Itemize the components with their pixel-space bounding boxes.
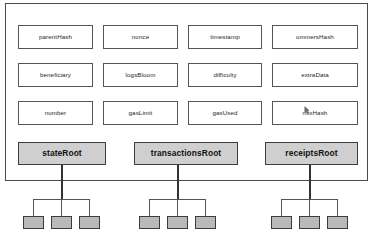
field-label: gasUsed [212,110,237,116]
tree-branch-stateRoot-3 [89,199,90,216]
field-box-number[interactable]: number [18,101,93,125]
field-label: logsBloom [126,72,156,78]
field-box-extraData[interactable]: extraData [272,63,358,87]
field-box-timestamp[interactable]: timestamp [188,25,262,49]
tree-branch-transactionsRoot-2 [177,199,178,216]
leaf-node[interactable] [23,216,44,229]
field-box-beneficiary[interactable]: beneficiary [18,63,93,87]
field-label: number [45,110,67,116]
root-box-receiptsRoot[interactable]: receiptsRoot [265,142,358,165]
field-box-parentHash[interactable]: parentHash [18,25,93,49]
leaf-node[interactable] [139,216,160,229]
leaf-node[interactable] [195,216,216,229]
field-box-logsBloom[interactable]: logsBloom [103,63,178,87]
leaf-node[interactable] [79,216,100,229]
leaf-node[interactable] [167,216,188,229]
leaf-node[interactable] [51,216,72,229]
field-label: ommersHash [296,34,334,40]
tree-trunk-transactionsRoot [177,164,179,199]
leaf-node[interactable] [327,216,348,229]
tree-branch-receiptsRoot-2 [309,199,310,216]
tree-branch-transactionsRoot-1 [149,199,150,216]
root-box-transactionsRoot[interactable]: transactionsRoot [134,142,238,165]
leaf-node[interactable] [271,216,292,229]
tree-trunk-stateRoot [61,164,63,199]
field-label: beneficiary [40,72,71,78]
tree-branch-receiptsRoot-3 [337,199,338,216]
root-label: transactionsRoot [151,149,221,157]
root-label: receiptsRoot [285,149,337,157]
tree-branch-stateRoot-2 [61,199,62,216]
tree-branch-stateRoot-1 [33,199,34,216]
field-label: gasLimit [129,110,153,116]
field-label: extraData [301,72,329,78]
diagram-canvas: parentHash nonce timestamp ommersHash be… [0,0,374,238]
tree-branch-receiptsRoot-1 [281,199,282,216]
field-box-gasUsed[interactable]: gasUsed [188,101,262,125]
field-label: nonce [132,34,149,40]
root-box-stateRoot[interactable]: stateRoot [18,142,106,165]
root-label: stateRoot [42,149,82,157]
field-box-difficulty[interactable]: difficulty [188,63,262,87]
field-box-nonce[interactable]: nonce [103,25,178,49]
field-box-ommersHash[interactable]: ommersHash [272,25,358,49]
field-label: mixHash [303,110,328,116]
field-label: parentHash [39,34,72,40]
field-label: timestamp [210,34,239,40]
tree-trunk-receiptsRoot [309,164,311,199]
leaf-node[interactable] [299,216,320,229]
field-box-mixHash[interactable]: mixHash [272,101,358,125]
field-box-gasLimit[interactable]: gasLimit [103,101,178,125]
tree-branch-transactionsRoot-3 [205,199,206,216]
field-label: difficulty [213,72,236,78]
